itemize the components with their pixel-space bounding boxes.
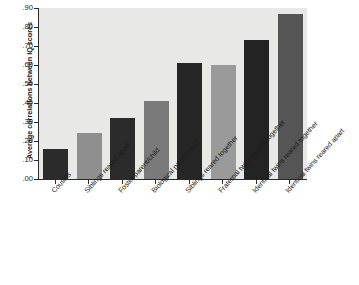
x-axis-category-label: Identical twins reared apart	[284, 127, 346, 195]
x-axis-category-labels: CousinsSiblings reared apartFoster paren…	[0, 0, 359, 285]
x-axis-category-label: Fraternal twins reared together	[217, 118, 287, 194]
bar-chart: Average correlations between IQ scores .…	[0, 0, 359, 285]
x-axis-category-label: Identical twins reared together	[251, 120, 319, 195]
x-axis-category-label: Cousins	[50, 171, 73, 195]
